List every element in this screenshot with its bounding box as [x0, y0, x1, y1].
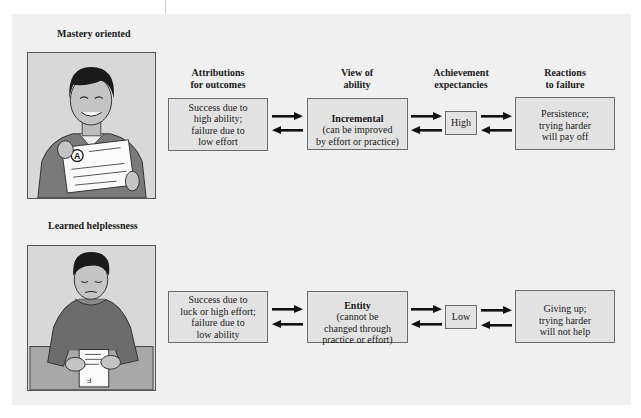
mastery-attribution-box: Success due to high ability; failure due…: [168, 98, 268, 151]
arrow-right-icon: [272, 305, 303, 313]
helpless-attribution-text: Success due to luck or high effort; fail…: [180, 294, 256, 340]
helpless-view-title: Entity: [322, 300, 392, 312]
mastery-student-illustration: A: [27, 52, 156, 199]
arrow-right-icon: [411, 305, 442, 313]
helpless-expectancy-text: Low: [452, 311, 470, 323]
divider-line: [165, 0, 166, 14]
helpless-view-box: Entity(cannot be changed through practic…: [307, 291, 408, 343]
helpless-attribution-box: Success due to luck or high effort; fail…: [168, 291, 268, 343]
mastery-view-desc: (can be improved by effort or practice): [316, 124, 399, 147]
helpless-reaction-box: Giving up; trying harder will not help: [515, 290, 615, 343]
downcast-student-icon: F: [28, 246, 155, 390]
helpless-expectancy-box: Low: [445, 305, 477, 329]
arrow-left-icon: [481, 126, 512, 134]
row-title-learned-helplessness: Learned helplessness: [48, 220, 138, 231]
arrow-left-icon: [481, 321, 512, 329]
helpless-view-desc: (cannot be changed through practice or e…: [322, 311, 392, 345]
svg-text:A: A: [74, 151, 81, 161]
helpless-view-content: Entity(cannot be changed through practic…: [322, 288, 392, 346]
mastery-view-title: Incremental: [316, 113, 399, 125]
mastery-reaction-text: Persistence; trying harder will pay off: [539, 108, 591, 143]
arrow-left-icon: [272, 320, 303, 328]
heading-view-of-ability: View of ability: [302, 67, 412, 91]
arrow-right-icon: [481, 112, 512, 120]
mastery-view-content: Incremental(can be improved by effort or…: [316, 101, 399, 147]
heading-attributions: Attributions for outcomes: [163, 67, 273, 91]
arrow-left-icon: [411, 126, 442, 134]
heading-reactions-to-failure: Reactions to failure: [510, 67, 620, 91]
arrow-left-icon: [411, 320, 442, 328]
mastery-attribution-text: Success due to high ability; failure due…: [189, 102, 248, 148]
arrow-right-icon: [272, 112, 303, 120]
helpless-reaction-text: Giving up; trying harder will not help: [539, 303, 591, 338]
mastery-view-box: Incremental(can be improved by effort or…: [307, 98, 408, 150]
arrow-right-icon: [481, 306, 512, 314]
mastery-expectancy-box: High: [445, 111, 477, 135]
svg-text:F: F: [86, 376, 91, 385]
arrow-right-icon: [411, 112, 442, 120]
mastery-expectancy-text: High: [451, 117, 471, 129]
smiling-student-icon: A: [28, 53, 155, 198]
arrow-left-icon: [272, 126, 303, 134]
heading-achievement-expectancies: Achievement expectancies: [406, 67, 516, 91]
row-title-mastery-oriented: Mastery oriented: [57, 28, 131, 39]
helpless-student-illustration: F: [27, 245, 156, 391]
mastery-reaction-box: Persistence; trying harder will pay off: [515, 97, 615, 150]
